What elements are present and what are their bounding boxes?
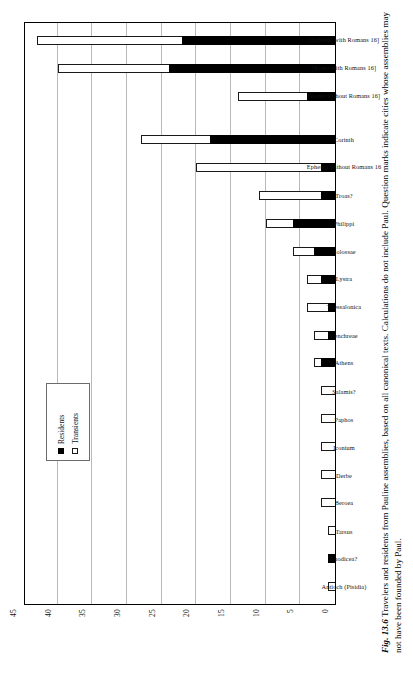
figure-13-6: 051015202530354045 Antioch (Pisidia)Laod… <box>0 0 413 679</box>
x-axis-category-label: Tarsus <box>336 528 353 535</box>
plot-area-wrapper: 051015202530354045 Antioch (Pisidia)Laod… <box>18 14 336 657</box>
x-axis-category-label: Athens <box>335 360 353 367</box>
bar-segment-transients <box>321 498 335 507</box>
y-tick-label: 40 <box>43 609 52 639</box>
chart-plot <box>24 22 336 605</box>
x-axis-category-label: Antioch (Pisidia) <box>322 584 367 591</box>
bar-segment-residents <box>169 64 335 73</box>
y-tick-label: 15 <box>217 609 226 639</box>
x-axis-category-label: Derbe <box>336 472 352 479</box>
bar-segment-residents <box>321 275 335 284</box>
figure-caption: Fig. 13.6 Travelers and residents from P… <box>379 12 405 653</box>
bar-slot-spacer <box>25 111 335 126</box>
x-axis-category-label: [Rome with Romans 16] <box>312 64 376 71</box>
bar-segment-transients <box>314 358 321 367</box>
bar-segment-transients <box>238 92 307 101</box>
bar-segment-transients <box>314 331 328 340</box>
bar-segment-residents <box>293 219 335 228</box>
x-axis-category-label: Philippi <box>334 220 355 227</box>
x-axis-category-label: Paphos <box>335 416 354 423</box>
y-tick-label: 5 <box>286 609 295 639</box>
stacked-bar <box>307 275 335 284</box>
stacked-bar <box>314 358 335 367</box>
bar-segment-transients <box>307 303 328 312</box>
stacked-bar <box>259 191 335 200</box>
figure-number: Fig. 13.6 <box>380 619 390 653</box>
bar-segment-transients <box>321 470 335 479</box>
stacked-bar <box>321 414 335 423</box>
bar-slot <box>25 126 335 154</box>
x-axis-category-label: Colossae <box>332 248 356 255</box>
legend-item-transients: Transients <box>71 390 80 454</box>
bar-segment-residents <box>210 135 335 144</box>
x-axis-category-label: Salamis? <box>332 388 356 395</box>
bar-segment-transients <box>141 135 210 144</box>
bar-segment-transients <box>259 191 321 200</box>
bar-segment-residents <box>321 358 335 367</box>
y-tick-label: 35 <box>78 609 87 639</box>
bar-slot <box>25 488 335 516</box>
bar-slot <box>25 210 335 238</box>
x-axis-category-label: Iconium <box>333 444 355 451</box>
bar-slot <box>25 83 335 111</box>
chart-legend: Residents Transients <box>46 383 90 461</box>
stacked-bar <box>58 64 335 73</box>
filled-square-icon <box>58 448 64 454</box>
y-tick-label: 30 <box>113 609 122 639</box>
y-tick-label: 10 <box>251 609 260 639</box>
x-axis-category-label: Ephesus without Romans 16 <box>307 164 381 171</box>
bar-segment-residents <box>321 191 335 200</box>
bar-segment-transients <box>293 247 314 256</box>
bar-slot <box>25 349 335 377</box>
x-axis-category-label: [Rome without Romans 16] <box>308 92 381 99</box>
stacked-bar <box>293 247 335 256</box>
stacked-bar <box>321 498 335 507</box>
x-axis-category-label: Lystra <box>336 276 352 283</box>
x-axis-category-label: Cenchreae <box>330 332 357 339</box>
bar-slot <box>25 182 335 210</box>
bar-slot <box>25 27 335 55</box>
legend-label-transients: Transients <box>71 413 80 444</box>
x-axis-category-label: Laodicea? <box>331 556 358 563</box>
bar-slot <box>25 237 335 265</box>
stacked-bar <box>328 526 335 535</box>
bar-slot <box>25 461 335 489</box>
bar-slot <box>25 265 335 293</box>
y-tick-label: 20 <box>182 609 191 639</box>
stacked-bar <box>37 36 335 45</box>
x-axis-category-label: Corinth <box>334 136 354 143</box>
bar-slot <box>25 544 335 572</box>
bar-slot <box>25 55 335 83</box>
bar-slot <box>25 321 335 349</box>
bar-slot <box>25 154 335 182</box>
y-tick-label: 0 <box>321 609 330 639</box>
bar-segment-transients <box>328 526 335 535</box>
bar-segment-transients <box>58 64 169 73</box>
bar-segment-transients <box>37 36 183 45</box>
bar-segment-transients <box>307 275 321 284</box>
bar-slot <box>25 293 335 321</box>
stacked-bar <box>141 135 335 144</box>
legend-item-residents: Residents <box>57 390 66 454</box>
x-axis-category-label: [Ephesus with Romans 16] <box>309 36 379 43</box>
y-tick-label: 45 <box>9 609 18 639</box>
bar-segment-transients <box>266 219 294 228</box>
figure-caption-text: Travelers and residents from Pauline ass… <box>380 12 403 653</box>
y-tick-label: 25 <box>147 609 156 639</box>
hollow-square-icon <box>72 448 78 454</box>
stacked-bar <box>266 219 335 228</box>
stacked-bar <box>321 470 335 479</box>
x-axis-category-label: Troas? <box>335 192 353 199</box>
bar-slot <box>25 516 335 544</box>
bar-slot <box>25 572 335 600</box>
x-axis-category-label: Beroea <box>335 500 353 507</box>
legend-label-residents: Residents <box>57 415 66 444</box>
bar-segment-transients <box>196 163 321 172</box>
bar-segment-transients <box>321 414 335 423</box>
figure-stage: 051015202530354045 Antioch (Pisidia)Laod… <box>0 0 413 679</box>
x-axis-category-label: Thessalonica <box>327 304 361 311</box>
bars-group <box>25 23 335 604</box>
